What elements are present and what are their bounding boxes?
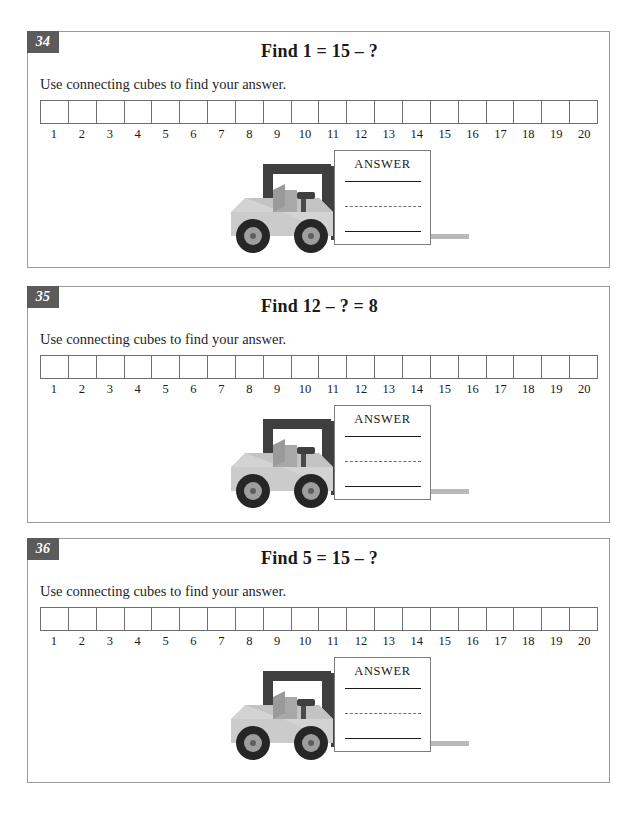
strip-label: 16	[459, 382, 487, 397]
strip-cell[interactable]	[292, 608, 320, 630]
strip-cell[interactable]	[431, 356, 459, 378]
strip-label: 12	[347, 382, 375, 397]
strip-label: 2	[68, 127, 96, 142]
strip-cell[interactable]	[375, 608, 403, 630]
strip-cell[interactable]	[152, 101, 180, 123]
strip-cell[interactable]	[69, 608, 97, 630]
strip-label: 9	[263, 634, 291, 649]
strip-cell[interactable]	[125, 101, 153, 123]
answer-rule-bottom	[345, 231, 421, 232]
strip-label: 4	[124, 634, 152, 649]
strip-cell[interactable]	[292, 356, 320, 378]
strip-label: 5	[152, 382, 180, 397]
strip-cell[interactable]	[264, 101, 292, 123]
strip-cell[interactable]	[542, 356, 570, 378]
strip-cell[interactable]	[264, 608, 292, 630]
strip-cell[interactable]	[41, 356, 69, 378]
cube-strip-cells[interactable]	[40, 355, 598, 379]
answer-box[interactable]: ANSWER	[334, 657, 431, 752]
strip-label: 15	[431, 634, 459, 649]
strip-cell[interactable]	[375, 356, 403, 378]
strip-cell[interactable]	[152, 356, 180, 378]
strip-label: 1	[40, 382, 68, 397]
strip-cell[interactable]	[208, 101, 236, 123]
strip-cell[interactable]	[41, 608, 69, 630]
strip-cell[interactable]	[487, 356, 515, 378]
strip-cell[interactable]	[375, 101, 403, 123]
strip-cell[interactable]	[570, 356, 597, 378]
strip-label: 20	[570, 127, 598, 142]
strip-cell[interactable]	[236, 101, 264, 123]
strip-cell[interactable]	[570, 101, 597, 123]
strip-label: 20	[570, 382, 598, 397]
strip-label: 9	[263, 382, 291, 397]
strip-cell[interactable]	[514, 608, 542, 630]
strip-cell[interactable]	[459, 356, 487, 378]
strip-cell[interactable]	[431, 608, 459, 630]
strip-cell[interactable]	[347, 608, 375, 630]
strip-label: 17	[487, 127, 515, 142]
strip-cell[interactable]	[319, 101, 347, 123]
strip-cell[interactable]	[97, 356, 125, 378]
strip-label: 12	[347, 634, 375, 649]
strip-cell[interactable]	[319, 356, 347, 378]
answer-rule-top	[345, 436, 421, 437]
strip-cell[interactable]	[236, 608, 264, 630]
strip-cell[interactable]	[403, 101, 431, 123]
strip-label: 5	[152, 127, 180, 142]
strip-cell[interactable]	[542, 608, 570, 630]
strip-cell[interactable]	[570, 608, 597, 630]
strip-cell[interactable]	[319, 608, 347, 630]
strip-cell[interactable]	[487, 101, 515, 123]
strip-cell[interactable]	[264, 356, 292, 378]
strip-label: 6	[180, 127, 208, 142]
problem-title: Find 12 – ? = 8	[28, 296, 611, 317]
strip-label: 1	[40, 634, 68, 649]
problem-instruction: Use connecting cubes to find your answer…	[40, 331, 286, 348]
strip-cell[interactable]	[514, 356, 542, 378]
strip-cell[interactable]	[487, 608, 515, 630]
strip-labels: 1 2 3 4 5 6 7 8 9 10 11 12 13 14 15 16 1…	[40, 382, 598, 397]
strip-label: 17	[487, 634, 515, 649]
answer-box[interactable]: ANSWER	[334, 150, 431, 245]
strip-label: 13	[375, 382, 403, 397]
strip-cell[interactable]	[236, 356, 264, 378]
strip-label: 18	[514, 382, 542, 397]
strip-cell[interactable]	[69, 101, 97, 123]
strip-label: 6	[180, 634, 208, 649]
strip-label: 13	[375, 634, 403, 649]
strip-label: 3	[96, 127, 124, 142]
strip-cell[interactable]	[180, 608, 208, 630]
problem-title: Find 1 = 15 – ?	[28, 41, 611, 62]
strip-cell[interactable]	[125, 608, 153, 630]
strip-cell[interactable]	[97, 608, 125, 630]
answer-box[interactable]: ANSWER	[334, 405, 431, 500]
strip-cell[interactable]	[180, 101, 208, 123]
strip-cell[interactable]	[403, 608, 431, 630]
strip-cell[interactable]	[208, 608, 236, 630]
cube-strip-cells[interactable]	[40, 100, 598, 124]
strip-cell[interactable]	[542, 101, 570, 123]
strip-cell[interactable]	[41, 101, 69, 123]
strip-label: 16	[459, 127, 487, 142]
strip-cell[interactable]	[459, 608, 487, 630]
cube-strip-cells[interactable]	[40, 607, 598, 631]
strip-label: 19	[542, 634, 570, 649]
strip-cell[interactable]	[292, 101, 320, 123]
strip-label: 10	[291, 634, 319, 649]
strip-cell[interactable]	[514, 101, 542, 123]
strip-cell[interactable]	[125, 356, 153, 378]
strip-cell[interactable]	[180, 356, 208, 378]
strip-label: 8	[235, 382, 263, 397]
strip-cell[interactable]	[152, 608, 180, 630]
strip-cell[interactable]	[97, 101, 125, 123]
strip-cell[interactable]	[347, 101, 375, 123]
strip-cell[interactable]	[431, 101, 459, 123]
strip-cell[interactable]	[69, 356, 97, 378]
strip-cell[interactable]	[347, 356, 375, 378]
strip-cell[interactable]	[459, 101, 487, 123]
number-strip: 1 2 3 4 5 6 7 8 9 10 11 12 13 14 15 16 1…	[40, 607, 598, 649]
strip-cell[interactable]	[208, 356, 236, 378]
strip-label: 14	[403, 634, 431, 649]
strip-cell[interactable]	[403, 356, 431, 378]
